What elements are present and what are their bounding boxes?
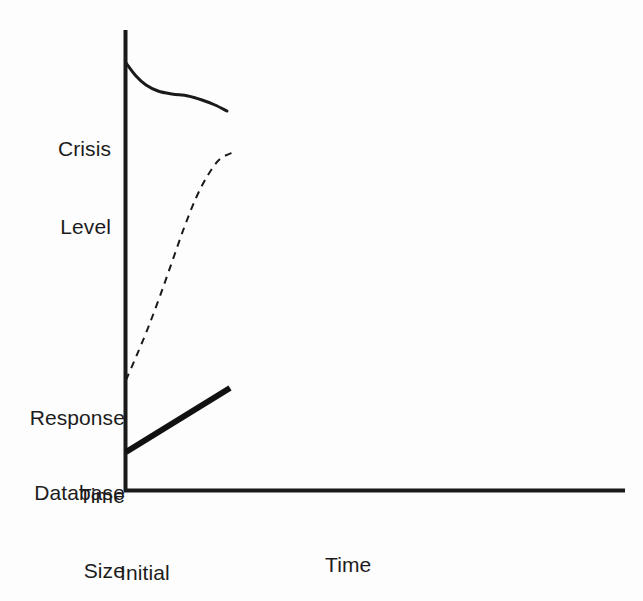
series-label-crisis-level-line1: Crisis	[58, 136, 111, 162]
x-axis-title: Time	[325, 552, 371, 578]
x-origin-label-initial-deployment: Initial Deployment	[120, 508, 233, 601]
series-label-database-size-line2: Size	[34, 558, 125, 584]
series-label-crisis-level: Crisis Level	[58, 84, 111, 266]
x-origin-label-line1: Initial	[120, 560, 233, 586]
series-label-crisis-level-line2: Level	[58, 214, 111, 240]
series-label-database-size: Database Size	[34, 428, 125, 601]
series-label-database-size-line1: Database	[34, 480, 125, 506]
